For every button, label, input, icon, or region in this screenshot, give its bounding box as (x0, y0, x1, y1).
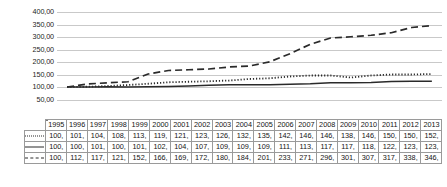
table-cell-value: 102, (150, 142, 171, 153)
table-row: CPI100,100,101,100,101,102,104,107,109,1… (25, 142, 442, 153)
table-header-year: 1997 (87, 120, 108, 131)
y-axis-tick-label: 300,00 (12, 33, 54, 40)
series-label: CPI (27, 143, 45, 151)
plot-area: 400,00350,00300,00250,00200,00150,00100,… (0, 0, 447, 120)
table-cell-value: 271, (295, 153, 316, 164)
table-header-year: 2010 (358, 120, 379, 131)
table-cell-value: 101, (129, 142, 150, 153)
table-header-year: 2006 (275, 120, 296, 131)
table-cell-value: 152, (421, 131, 442, 142)
table-cell-value: 146, (316, 131, 337, 142)
legend-row-gdpm: GDPM (25, 131, 46, 142)
table-cell-value: 104, (170, 142, 191, 153)
table-header-year: 1999 (129, 120, 150, 131)
y-axis-tick-label: 400,00 (12, 8, 54, 15)
table-cell-value: 113, (295, 142, 316, 153)
table-cell-value: 338, (400, 153, 421, 164)
table-cell-value: 296, (316, 153, 337, 164)
table-cell-value: 117, (337, 142, 358, 153)
table-body: GDPM100,101,104,108,113,119,121,123,126,… (25, 131, 442, 164)
table-header-year: 2002 (191, 120, 212, 131)
table-cell-value: 166, (150, 153, 171, 164)
table-cell-value: 317, (379, 153, 400, 164)
table-header-year: 2000 (150, 120, 171, 131)
series-label: GDPM (27, 132, 45, 140)
y-axis-tick-label: 350,00 (12, 21, 54, 28)
table-cell-value: 123, (421, 142, 442, 153)
table-cell-value: 180, (212, 153, 233, 164)
table-cell-value: 150, (400, 131, 421, 142)
table-cell-value: 301, (337, 153, 358, 164)
table-header-year: 2013 (421, 120, 442, 131)
table-cell-value: 101, (66, 131, 87, 142)
table-cell-value: 146, (358, 131, 379, 142)
series-label: M3 (27, 154, 45, 162)
series-line-cpi (67, 81, 432, 87)
table-header-year: 2007 (295, 120, 316, 131)
table-header-row: 1995199619971998199920002001200220032004… (25, 120, 442, 131)
table-header-year: 1996 (66, 120, 87, 131)
table-cell-value: 100, (108, 142, 129, 153)
table-header-year: 2001 (170, 120, 191, 131)
legend-row-m3: M3 (25, 153, 46, 164)
legend-line-swatch-dashed-icon (25, 158, 44, 159)
table-cell-value: 109, (233, 142, 254, 153)
table-header-year: 2012 (400, 120, 421, 131)
table-cell-value: 119, (150, 131, 171, 142)
table-cell-value: 169, (170, 153, 191, 164)
table-header-year: 1995 (45, 120, 66, 131)
y-axis: 400,00350,00300,00250,00200,00150,00100,… (12, 12, 54, 112)
table-cell-value: 126, (212, 131, 233, 142)
table-cell-value: 121, (108, 153, 129, 164)
table-cell-value: 233, (275, 153, 296, 164)
table-cell-value: 117, (87, 153, 108, 164)
table-cell-value: 111, (275, 142, 296, 153)
table-cell-value: 346, (421, 153, 442, 164)
table-cell-value: 104, (87, 131, 108, 142)
table-header-year: 2003 (212, 120, 233, 131)
table-cell-value: 146, (295, 131, 316, 142)
table-corner-cell (25, 120, 46, 131)
table-cell-value: 307, (358, 153, 379, 164)
y-axis-tick-label: 100,00 (12, 83, 54, 90)
y-axis-tick-label: 150,00 (12, 71, 54, 78)
table-cell-value: 112, (66, 153, 87, 164)
table-cell-value: 100, (45, 131, 66, 142)
table-cell-value: 132, (233, 131, 254, 142)
legend-line-swatch-dotted-icon (25, 136, 44, 137)
series-line-m3 (67, 26, 432, 88)
table-cell-value: 121, (170, 131, 191, 142)
table-cell-value: 122, (379, 142, 400, 153)
table-cell-value: 107, (191, 142, 212, 153)
table-cell-value: 138, (337, 131, 358, 142)
table-cell-value: 117, (316, 142, 337, 153)
table-cell-value: 152, (129, 153, 150, 164)
table-cell-value: 100, (45, 142, 66, 153)
table-header-year: 1998 (108, 120, 129, 131)
table-header-year: 2008 (316, 120, 337, 131)
table-header-year: 2004 (233, 120, 254, 131)
chart-container: 400,00350,00300,00250,00200,00150,00100,… (0, 0, 447, 187)
table-cell-value: 100, (66, 142, 87, 153)
table-cell-value: 109, (254, 142, 275, 153)
table-cell-value: 172, (191, 153, 212, 164)
data-table-wrapper: 1995199619971998199920002001200220032004… (24, 119, 442, 164)
y-axis-tick-label: 250,00 (12, 46, 54, 53)
table-cell-value: 123, (400, 142, 421, 153)
table-row: GDPM100,101,104,108,113,119,121,123,126,… (25, 131, 442, 142)
table-cell-value: 100, (45, 153, 66, 164)
legend-line-swatch-solid-icon (25, 147, 44, 148)
legend-row-cpi: CPI (25, 142, 46, 153)
table-cell-value: 113, (129, 131, 150, 142)
data-table: 1995199619971998199920002001200220032004… (24, 119, 442, 164)
table-header-year: 2005 (254, 120, 275, 131)
table-cell-value: 201, (254, 153, 275, 164)
table-cell-value: 108, (108, 131, 129, 142)
table-cell-value: 118, (358, 142, 379, 153)
y-axis-tick-label: 50,00 (12, 96, 54, 103)
table-header-year: 2011 (379, 120, 400, 131)
y-axis-tick-label: 200,00 (12, 58, 54, 65)
table-cell-value: 101, (87, 142, 108, 153)
table-cell-value: 142, (275, 131, 296, 142)
table-cell-value: 184, (233, 153, 254, 164)
